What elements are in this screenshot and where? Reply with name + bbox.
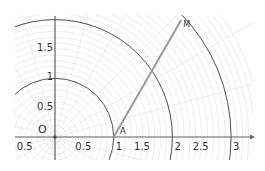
y-tick-label: 1 [47,71,53,82]
grid-radial [0,0,55,137]
x-tick-label: 2.5 [193,141,209,152]
x-tick-label: 0.5 [17,141,33,152]
grid-circle [0,72,120,171]
x-tick-label: 1 [116,141,122,152]
circle-radius-1 [0,78,114,171]
polar-grid-figure: AM 0.50.511.522.530.511.5 O [0,0,265,171]
origin-label: O [38,123,47,136]
x-axis-arrow-icon [250,135,255,140]
grid-radial [0,0,55,137]
x-tick-label: 3 [233,141,239,152]
x-tick-label: 0.5 [75,141,91,152]
grid-circle [0,0,260,171]
y-tick-label: 0.5 [37,101,53,112]
y-tick-label: 1.5 [37,42,53,53]
grid-radial [0,0,55,137]
grid-circle [0,49,143,171]
polar-grid-lines [0,0,265,171]
origin-point [53,135,56,138]
grid-circle [0,67,125,171]
grid-radial [55,0,255,137]
grid-circle [0,0,255,171]
point-a-label: A [120,126,127,136]
grid-radial [0,0,55,137]
point-m-label: M [183,20,190,29]
x-tick-label: 1.5 [134,141,150,152]
x-tick-label: 2 [174,141,180,152]
